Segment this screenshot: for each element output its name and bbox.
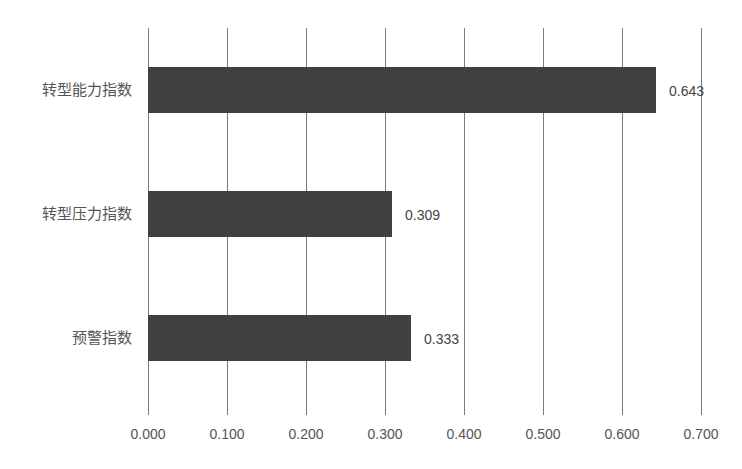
- category-label: 转型压力指数: [42, 204, 132, 224]
- horizontal-bar-chart: 转型能力指数转型压力指数预警指数 0.6430.3090.333 0.0000.…: [0, 0, 742, 469]
- value-label: 0.643: [669, 81, 704, 101]
- x-tick-label: 0.700: [683, 426, 718, 442]
- bar: [148, 191, 392, 237]
- value-label: 0.309: [405, 205, 440, 225]
- x-tick-label: 0.200: [288, 426, 323, 442]
- x-tick-label: 0.600: [604, 426, 639, 442]
- bar: [148, 67, 656, 113]
- bar: [148, 315, 411, 361]
- x-tick-label: 0.100: [209, 426, 244, 442]
- x-tick-label: 0.000: [130, 426, 165, 442]
- x-tick-label: 0.400: [446, 426, 481, 442]
- x-tick-label: 0.500: [525, 426, 560, 442]
- category-label: 预警指数: [72, 328, 132, 348]
- x-tick-label: 0.300: [367, 426, 402, 442]
- category-label: 转型能力指数: [42, 80, 132, 100]
- value-label: 0.333: [424, 329, 459, 349]
